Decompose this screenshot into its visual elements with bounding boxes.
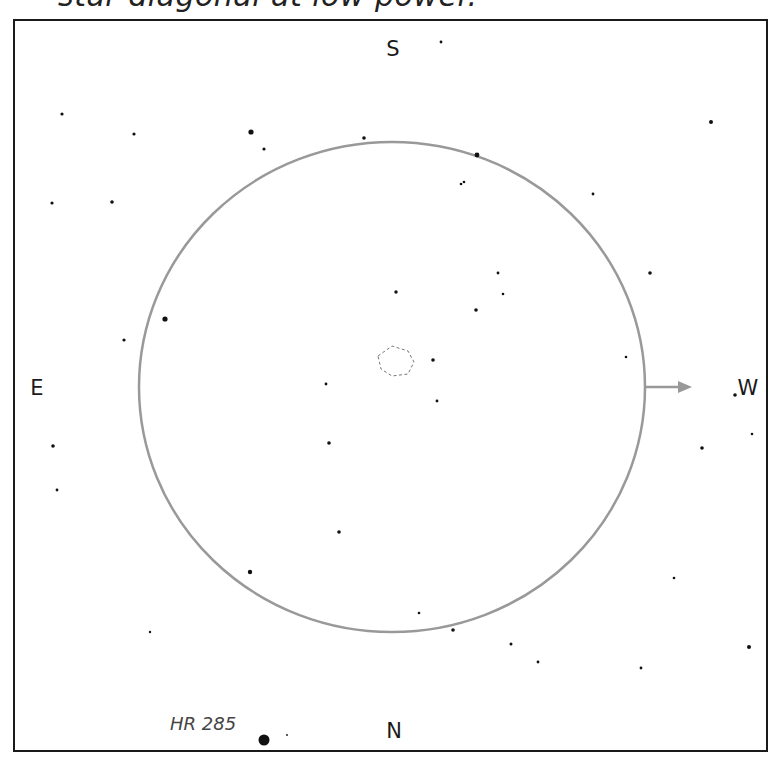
star (510, 643, 513, 646)
direction-east-label: E (30, 376, 43, 400)
star (463, 181, 466, 184)
drift-arrow-icon (645, 381, 692, 393)
star (162, 316, 167, 321)
star (733, 393, 737, 397)
star (673, 577, 676, 580)
star (51, 444, 55, 448)
star (418, 612, 421, 615)
star (262, 147, 265, 150)
star (537, 661, 540, 664)
star (394, 290, 397, 293)
star (248, 570, 252, 574)
star (592, 193, 595, 196)
star (110, 200, 114, 204)
star (132, 132, 135, 135)
star (50, 201, 53, 204)
star (700, 446, 704, 450)
hr285-star (259, 735, 270, 746)
star (122, 338, 125, 341)
star (60, 112, 63, 115)
nebula-outline (378, 346, 414, 376)
star (475, 153, 480, 158)
star (149, 631, 151, 633)
direction-west-label: W (738, 376, 759, 400)
star (440, 41, 443, 44)
star (451, 628, 455, 632)
star (431, 358, 435, 362)
star (362, 136, 366, 140)
star (640, 667, 643, 670)
star (502, 293, 505, 296)
star (474, 308, 478, 312)
direction-south-label: S (386, 37, 399, 61)
star (497, 272, 500, 275)
star (56, 489, 59, 492)
star (625, 356, 628, 359)
star (248, 129, 253, 134)
star (648, 271, 652, 275)
star (709, 120, 713, 124)
hr285-label: HR 285 (170, 713, 236, 734)
field-of-view-circle (139, 142, 645, 632)
star (751, 433, 754, 436)
star (325, 383, 328, 386)
star (460, 183, 463, 186)
direction-north-label: N (386, 719, 402, 743)
star-field (0, 0, 774, 758)
star (337, 530, 341, 534)
star (286, 734, 288, 736)
star (436, 400, 439, 403)
star (327, 441, 331, 445)
star (747, 645, 751, 649)
